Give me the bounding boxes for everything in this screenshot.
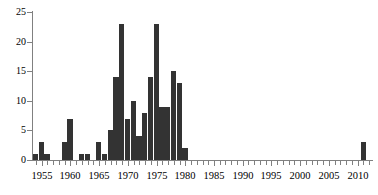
bar <box>96 142 101 160</box>
x-tick-mark <box>180 161 181 165</box>
x-tick-mark <box>335 161 336 165</box>
x-tick-mark <box>203 161 204 165</box>
bar <box>142 113 147 160</box>
x-tick-mark <box>151 161 152 165</box>
x-tick-mark <box>248 161 249 165</box>
bar <box>108 130 113 160</box>
bars-layer <box>33 12 373 160</box>
bar <box>119 24 124 160</box>
bar <box>67 119 72 160</box>
x-tick-mark-major <box>128 161 129 166</box>
x-tick-mark <box>220 161 221 165</box>
x-tick-mark <box>260 161 261 165</box>
bar <box>125 119 130 160</box>
bar <box>39 142 44 160</box>
x-tick-mark <box>59 161 60 165</box>
bar <box>44 154 49 160</box>
x-tick-mark <box>323 161 324 165</box>
x-tick-mark <box>111 161 112 165</box>
y-tick-label: 20 <box>0 37 26 47</box>
x-tick-mark <box>139 161 140 165</box>
x-tick-mark <box>225 161 226 165</box>
x-tick-mark <box>266 161 267 165</box>
x-tick-mark <box>231 161 232 165</box>
x-tick-mark <box>36 161 37 165</box>
x-tick-mark <box>277 161 278 165</box>
y-tick-label: 10 <box>0 96 26 106</box>
bar <box>361 142 366 160</box>
x-tick-mark-major <box>185 161 186 166</box>
x-tick-mark <box>174 161 175 165</box>
x-tick-mark <box>191 161 192 165</box>
x-tick-mark <box>254 161 255 165</box>
x-tick-mark <box>47 161 48 165</box>
x-tick-mark <box>283 161 284 165</box>
x-tick-mark <box>53 161 54 165</box>
x-tick-mark <box>346 161 347 165</box>
y-tick-label: 5 <box>0 125 26 135</box>
x-tick-mark <box>168 161 169 165</box>
bar <box>165 107 170 160</box>
x-tick-mark <box>82 161 83 165</box>
x-tick-mark <box>105 161 106 165</box>
x-tick-mark <box>289 161 290 165</box>
x-tick-mark-major <box>358 161 359 166</box>
x-tick-mark <box>122 161 123 165</box>
x-tick-mark <box>88 161 89 165</box>
x-tick-mark <box>352 161 353 165</box>
x-tick-mark <box>162 161 163 165</box>
x-tick-mark-major <box>214 161 215 166</box>
bar <box>171 71 176 160</box>
x-tick-mark <box>369 161 370 165</box>
x-tick-mark <box>208 161 209 165</box>
x-tick-mark-major <box>243 161 244 166</box>
x-tick-mark <box>312 161 313 165</box>
x-tick-mark <box>93 161 94 165</box>
x-tick-mark <box>363 161 364 165</box>
x-tick-mark <box>317 161 318 165</box>
bar <box>113 77 118 160</box>
bar <box>102 154 107 160</box>
bar <box>62 142 67 160</box>
y-tick-label: 15 <box>0 66 26 76</box>
x-tick-mark-major <box>42 161 43 166</box>
histogram-chart: 0510152025 19551960196519701975198019851… <box>0 0 378 195</box>
x-tick-mark <box>116 161 117 165</box>
x-tick-mark <box>134 161 135 165</box>
x-tick-mark-major <box>329 161 330 166</box>
bar <box>154 24 159 160</box>
bar <box>85 154 90 160</box>
x-tick-mark <box>65 161 66 165</box>
bar <box>182 148 187 160</box>
bar <box>159 107 164 160</box>
x-tick-mark-major <box>157 161 158 166</box>
y-tick-label: 0 <box>0 155 26 165</box>
bar <box>148 77 153 160</box>
x-tick-label: 2010 <box>338 170 378 182</box>
x-tick-mark-major <box>99 161 100 166</box>
bar <box>136 136 141 160</box>
x-tick-mark-major <box>70 161 71 166</box>
bar <box>177 83 182 160</box>
x-tick-mark-major <box>300 161 301 166</box>
y-tick-mark <box>27 160 33 161</box>
x-tick-mark <box>340 161 341 165</box>
bar <box>79 154 84 160</box>
bar <box>33 154 38 160</box>
x-tick-mark <box>197 161 198 165</box>
x-tick-mark <box>76 161 77 165</box>
x-tick-mark <box>294 161 295 165</box>
x-tick-mark-major <box>271 161 272 166</box>
x-tick-mark <box>145 161 146 165</box>
bar <box>131 101 136 160</box>
y-tick-label: 25 <box>0 7 26 17</box>
x-tick-mark <box>306 161 307 165</box>
x-tick-mark <box>237 161 238 165</box>
